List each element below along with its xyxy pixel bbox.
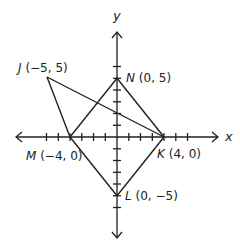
point-J-coords: (−5, 5)	[25, 61, 67, 75]
point-L-name: L	[125, 189, 132, 203]
point-M-name: M	[26, 149, 37, 163]
point-label-M: M (−4, 0)	[26, 149, 83, 163]
point-L-coords: (0, −5)	[136, 189, 178, 203]
point-M-coords: (−4, 0)	[40, 149, 82, 163]
segment-ML	[70, 137, 117, 196]
segment-JK	[47, 77, 164, 137]
y-axis-label: y	[112, 8, 121, 23]
point-label-J: J (−5, 5)	[16, 61, 68, 75]
point-J-name: J	[16, 61, 22, 75]
segment-LK	[117, 137, 164, 196]
point-N-name: N	[126, 71, 135, 85]
point-label-L: L (0, −5)	[125, 189, 178, 203]
y-axis	[112, 32, 122, 238]
coordinate-plane-diagram: x y J (−5, 5) N (0, 5) M (−4, 0) K (4, 0…	[0, 0, 240, 248]
segment-NK	[117, 78, 164, 137]
x-axis-label: x	[224, 129, 233, 144]
segment-JM	[47, 77, 70, 137]
point-K-name: K	[157, 147, 166, 161]
point-label-N: N (0, 5)	[126, 71, 171, 85]
segment-MN	[70, 78, 117, 137]
point-label-K: K (4, 0)	[157, 147, 201, 161]
point-K-coords: (4, 0)	[169, 147, 201, 161]
point-N-coords: (0, 5)	[139, 71, 171, 85]
